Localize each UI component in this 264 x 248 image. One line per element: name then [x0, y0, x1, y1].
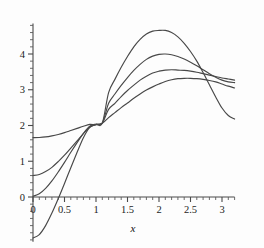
- x-tick-label: 2: [156, 204, 161, 215]
- y-tick-label: 4: [20, 49, 26, 60]
- x-tick-label: 0.5: [58, 204, 71, 215]
- tick-labels-group: 00.511.522.5301234: [20, 49, 225, 215]
- y-tick-label: 2: [20, 120, 25, 131]
- plot-canvas: 00.511.522.5301234 x: [0, 0, 264, 248]
- x-tick-label: 3: [219, 204, 224, 215]
- x-axis-title: x: [130, 222, 136, 234]
- x-tick-label: 2.5: [184, 204, 197, 215]
- y-tick-label: 0: [20, 192, 25, 203]
- x-tick-label: 1: [93, 204, 98, 215]
- curve-2-low-amplitude: [33, 70, 235, 176]
- x-tick-label: 0: [30, 204, 35, 215]
- plot-figure: 00.511.522.5301234 x: [0, 0, 264, 248]
- y-tick-label: 1: [20, 156, 25, 167]
- y-tick-label: 3: [20, 84, 25, 95]
- curve-1-flattest: [33, 78, 235, 137]
- x-tick-label: 1.5: [121, 204, 134, 215]
